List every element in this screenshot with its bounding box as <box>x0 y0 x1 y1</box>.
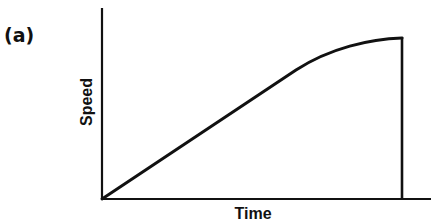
y-axis-label: Speed <box>78 78 96 126</box>
x-axis-label: Time <box>234 205 271 223</box>
speed-time-chart <box>0 0 431 224</box>
speed-curve <box>102 38 402 199</box>
